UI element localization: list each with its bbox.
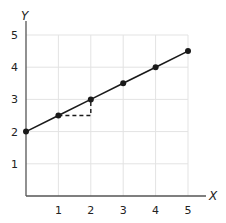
tick-labels: 1234512345	[11, 29, 192, 217]
y-tick-label: 4	[11, 61, 18, 74]
data-point-marker	[88, 96, 94, 102]
y-tick-label: 5	[11, 29, 18, 42]
axes	[26, 21, 206, 196]
data-point-marker	[120, 80, 126, 86]
y-tick-label: 3	[11, 93, 18, 106]
data-series	[23, 48, 191, 135]
y-axis-label: Y	[21, 9, 30, 23]
x-axis-label: X	[208, 189, 218, 203]
x-tick-label: 4	[152, 204, 159, 217]
data-point-marker	[185, 48, 191, 54]
data-point-marker	[153, 64, 159, 70]
y-tick-label: 1	[11, 158, 18, 171]
y-tick-label: 2	[11, 126, 18, 139]
x-tick-label: 2	[87, 204, 94, 217]
data-point-marker	[23, 129, 29, 135]
x-tick-label: 1	[55, 204, 62, 217]
line-chart: 1234512345 X Y	[0, 0, 226, 223]
x-tick-label: 5	[185, 204, 192, 217]
x-tick-label: 3	[120, 204, 127, 217]
data-point-marker	[55, 113, 61, 119]
grid	[26, 35, 188, 196]
data-line	[26, 51, 188, 132]
